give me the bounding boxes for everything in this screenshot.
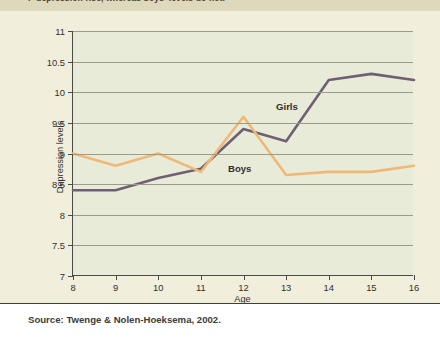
x-tick-mark [414, 275, 415, 280]
y-gridline [73, 92, 413, 93]
y-gridline [73, 62, 413, 63]
x-tick-mark [244, 275, 245, 280]
y-tick-label: 7 [60, 271, 65, 282]
y-tick-label: 8 [60, 209, 65, 220]
y-tick-label: 11 [55, 26, 65, 37]
y-tick-mark [68, 154, 73, 155]
y-tick-label: 7.5 [52, 240, 65, 251]
y-gridline [73, 31, 413, 32]
x-tick-label: 8 [70, 282, 75, 293]
series-label-girls: Girls [276, 101, 298, 112]
x-tick-mark [116, 275, 117, 280]
x-tick-label: 12 [238, 282, 248, 293]
series-label-boys: Boys [228, 163, 251, 174]
x-tick-label: 16 [409, 282, 419, 293]
x-tick-label: 10 [153, 282, 163, 293]
x-tick-mark [329, 275, 330, 280]
y-tick-label: 9 [60, 148, 65, 159]
figure-panel: r' depression rise, whereas boys' levels… [0, 0, 440, 342]
x-tick-label: 14 [324, 282, 334, 293]
x-tick-label: 11 [196, 282, 206, 293]
y-tick-mark [68, 245, 73, 246]
x-tick-mark [158, 275, 159, 280]
y-gridline [73, 154, 413, 155]
source-caption: Source: Twenge & Nolen-Hoeksema, 2002. [28, 314, 221, 325]
x-tick-mark [286, 275, 287, 280]
x-tick-mark [201, 275, 202, 280]
source-divider [0, 303, 440, 304]
y-gridline [73, 245, 413, 246]
y-tick-mark [68, 31, 73, 32]
y-tick-mark [68, 184, 73, 185]
x-tick-label: 13 [281, 282, 291, 293]
y-tick-label: 10.5 [47, 56, 65, 67]
y-gridline [73, 184, 413, 185]
x-tick-mark [371, 275, 372, 280]
x-tick-label: 15 [366, 282, 376, 293]
plot-area: 77.588.599.51010.5118910111213141516 [72, 31, 413, 276]
x-tick-mark [73, 275, 74, 280]
y-tick-mark [68, 92, 73, 93]
x-tick-label: 9 [113, 282, 118, 293]
intro-banner: r' depression rise, whereas boys' levels… [0, 0, 440, 11]
figure-card: Depression levels 77.588.599.51010.51189… [0, 11, 440, 303]
y-gridline [73, 123, 413, 124]
intro-text: r' depression rise, whereas boys' levels… [28, 0, 225, 3]
y-tick-mark [68, 62, 73, 63]
y-gridline [73, 215, 413, 216]
y-tick-label: 8.5 [52, 179, 65, 190]
y-tick-mark [68, 123, 73, 124]
y-tick-label: 10 [55, 87, 65, 98]
y-tick-label: 9.5 [52, 117, 65, 128]
y-tick-mark [68, 215, 73, 216]
